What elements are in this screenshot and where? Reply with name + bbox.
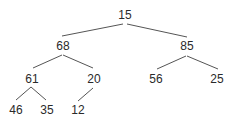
edge-85-25 (187, 56, 218, 69)
node-56: 56 (149, 73, 162, 85)
node-15: 15 (118, 9, 131, 21)
edge-68-20 (63, 55, 93, 68)
node-20: 20 (87, 73, 100, 85)
edge-68-61 (33, 55, 62, 68)
edge-61-35 (31, 87, 46, 100)
edge-20-12 (78, 88, 93, 101)
node-25: 25 (210, 73, 223, 85)
edge-15-68 (62, 24, 123, 36)
node-35: 35 (40, 104, 53, 116)
node-61: 61 (25, 73, 38, 85)
node-46: 46 (9, 104, 22, 116)
node-12: 12 (71, 104, 84, 116)
tree-diagram: 15 68 85 61 20 56 25 46 35 12 (0, 0, 235, 122)
edge-85-56 (157, 56, 186, 69)
edge-61-46 (16, 87, 31, 100)
node-68: 68 (56, 40, 69, 52)
node-85: 85 (180, 40, 193, 52)
edge-15-85 (127, 24, 187, 37)
